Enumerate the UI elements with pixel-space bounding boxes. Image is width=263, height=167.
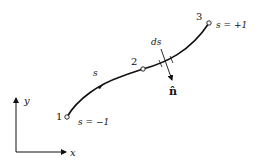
node-1-param: s = −1 bbox=[78, 117, 109, 127]
node-1-marker bbox=[65, 115, 69, 119]
ds-element: ds n̂ bbox=[151, 37, 177, 98]
node-1: 1 s = −1 bbox=[56, 111, 109, 127]
node-3: 3 s = +1 bbox=[196, 11, 247, 30]
curved-element-diagram: y x ds n̂ 1 s = −1 2 3 s = +1 s bbox=[0, 0, 263, 167]
y-axis-label: y bbox=[23, 95, 30, 106]
ds-label: ds bbox=[151, 37, 162, 47]
normal-label: n̂ bbox=[169, 85, 177, 98]
node-3-param: s = +1 bbox=[216, 20, 247, 30]
node-3-label: 3 bbox=[196, 11, 202, 22]
node-1-label: 1 bbox=[56, 111, 62, 122]
x-axis-label: x bbox=[70, 147, 76, 158]
node-2-marker bbox=[141, 67, 145, 71]
node-2-label: 2 bbox=[131, 56, 137, 67]
node-3-marker bbox=[207, 21, 211, 25]
node-2: 2 bbox=[131, 56, 145, 71]
boundary-curve bbox=[67, 23, 209, 117]
curve-param-label: s bbox=[93, 68, 98, 78]
normal-vector bbox=[161, 49, 172, 80]
coordinate-axes: y x bbox=[16, 95, 76, 158]
